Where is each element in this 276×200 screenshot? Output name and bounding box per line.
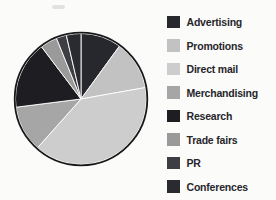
scan-artifact (52, 5, 65, 9)
legend-label: Merchandising (187, 87, 259, 99)
pie-svg (13, 31, 149, 167)
legend-label: Advertising (187, 16, 243, 28)
legend-swatch (167, 39, 180, 52)
legend-item: Direct mail (167, 57, 258, 81)
legend-item: Promotions (167, 34, 258, 58)
chart-figure: Advertising Promotions Direct mail Merch… (0, 0, 276, 200)
legend-item: Research (167, 104, 258, 128)
legend-swatch (167, 16, 180, 29)
legend-label: Direct mail (187, 63, 239, 75)
chart-legend: Advertising Promotions Direct mail Merch… (167, 10, 258, 198)
pie-chart (13, 31, 149, 167)
legend-item: Merchandising (167, 81, 258, 105)
legend-swatch (167, 110, 180, 123)
legend-label: Conferences (187, 181, 248, 193)
legend-label: Research (187, 110, 233, 122)
legend-item: Advertising (167, 10, 258, 34)
legend-swatch (167, 157, 180, 170)
legend-item: Trade fairs (167, 128, 258, 152)
legend-swatch (167, 63, 180, 76)
legend-label: Trade fairs (187, 134, 238, 146)
legend-label: PR (187, 157, 201, 169)
legend-swatch (167, 86, 180, 99)
legend-label: Promotions (187, 40, 243, 52)
legend-item: Conferences (167, 175, 258, 199)
legend-item: PR (167, 151, 258, 175)
legend-swatch (167, 180, 180, 193)
legend-swatch (167, 133, 180, 146)
